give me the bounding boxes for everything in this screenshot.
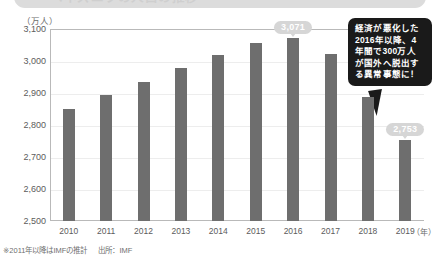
bar — [212, 55, 224, 221]
callout-annotation: 経済が悪化した 2016年以降、4 年間で300万人 が国外へ脱出す る異常事態… — [348, 18, 432, 86]
y-axis-tick-label: 2,600 — [2, 184, 46, 194]
x-axis-tick-label: 2017 — [321, 226, 340, 236]
y-axis-tick-label: 2,700 — [2, 152, 46, 162]
x-axis-tick-label: 2012 — [134, 226, 153, 236]
callout-line: が国外へ脱出す — [355, 58, 426, 70]
x-axis-tick-label: 2018 — [358, 226, 377, 236]
bar — [138, 82, 150, 221]
data-label-pill: 3,071 — [274, 21, 312, 34]
footnote: ※2011年以降はIMFの推計 出所：IMF — [3, 244, 132, 255]
x-axis-tick-label: 2016 — [284, 226, 303, 236]
bar — [63, 109, 75, 221]
y-axis-tick-label: 3,000 — [2, 56, 46, 66]
y-axis-ticks: 2,5002,6002,7002,8002,9003,0003,100 — [0, 0, 46, 264]
bar — [325, 54, 337, 221]
callout-line: 年間で300万人 — [355, 46, 426, 58]
x-axis-tick-label: 2013 — [171, 226, 190, 236]
bar — [250, 43, 262, 221]
bar-chart: （万人） 2,5002,6002,7002,8002,9003,0003,100… — [0, 0, 439, 264]
bar — [362, 97, 374, 221]
x-axis-tick-label: 2011 — [97, 226, 115, 236]
x-axis-tick-label: 2019 — [396, 226, 415, 236]
x-axis-tick-label: 2010 — [59, 226, 78, 236]
footnote-source: 出所：IMF — [98, 246, 132, 255]
data-label-pill: 2,753 — [386, 123, 424, 136]
bar — [175, 68, 187, 221]
y-axis-tick-label: 2,900 — [2, 88, 46, 98]
bar — [399, 140, 411, 221]
y-axis-tick-label: 2,800 — [2, 120, 46, 130]
bar — [100, 95, 112, 221]
callout-line: 経済が悪化した — [355, 23, 426, 35]
x-axis-unit-label: （年） — [412, 226, 436, 237]
y-axis-tick-label: 2,500 — [2, 216, 46, 226]
x-axis-tick-label: 2015 — [246, 226, 265, 236]
y-axis-tick-label: 3,100 — [2, 24, 46, 34]
bar — [287, 38, 299, 221]
callout-line: 2016年以降、4 — [355, 35, 426, 47]
callout-line: る異常事態に！ — [355, 69, 426, 81]
footnote-note: ※2011年以降はIMFの推計 — [3, 246, 87, 255]
x-axis-tick-label: 2014 — [209, 226, 228, 236]
